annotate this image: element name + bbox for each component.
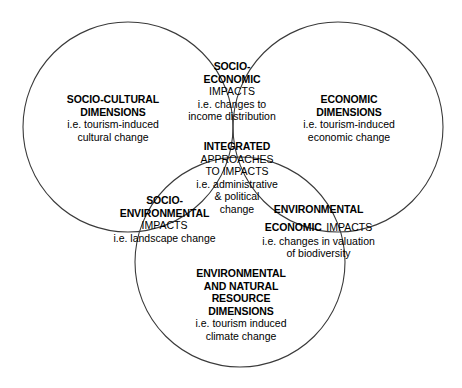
socio-env-sub-line1: i.e. landscape change bbox=[98, 232, 231, 245]
label-socio-economic-impacts: SOCIO- ECONOMIC IMPACTS i.e. changes to … bbox=[171, 60, 293, 123]
socio-cultural-sub-line2: cultural change bbox=[28, 131, 198, 144]
label-environmental-natural-resource-dimensions: ENVIRONMENTAL AND NATURAL RESOURCE DIMEN… bbox=[155, 267, 327, 343]
socio-economic-sub-line1: i.e. changes to bbox=[171, 98, 293, 111]
env-natural-title-line4: DIMENSIONS bbox=[155, 305, 327, 318]
integrated-title-line3: TO IMPACTS bbox=[183, 165, 291, 178]
env-economic-sub-line2: of biodiversity bbox=[247, 247, 390, 260]
socio-env-title-line3: IMPACTS bbox=[98, 219, 231, 232]
venn-diagram: SOCIO-CULTURAL DIMENSIONS i.e. tourism-i… bbox=[0, 0, 462, 388]
env-natural-sub-line2: climate change bbox=[155, 330, 327, 343]
env-natural-sub-line1: i.e. tourism induced bbox=[155, 317, 327, 330]
env-economic-title-line2: ECONOMIC IMPACTS bbox=[247, 216, 390, 235]
env-economic-title-line2-regular: IMPACTS bbox=[326, 221, 372, 233]
socio-economic-title-line2: ECONOMIC bbox=[171, 73, 293, 86]
env-natural-title-line2: AND NATURAL bbox=[155, 280, 327, 293]
socio-economic-sub-line2: income distribution bbox=[171, 110, 293, 123]
env-economic-title-line2-bold: ECONOMIC bbox=[265, 221, 322, 233]
socio-economic-title-line3: IMPACTS bbox=[171, 85, 293, 98]
socio-economic-title-line1: SOCIO- bbox=[171, 60, 293, 73]
integrated-sub-line3: change bbox=[183, 203, 291, 216]
integrated-sub-line1: i.e. administrative bbox=[183, 178, 291, 191]
integrated-title-line2: APPROACHES bbox=[183, 153, 291, 166]
env-economic-sub-line1: i.e. changes in valuation bbox=[247, 235, 390, 248]
integrated-title-line1: INTEGRATED bbox=[183, 140, 291, 153]
env-natural-title-line1: ENVIRONMENTAL bbox=[155, 267, 327, 280]
env-natural-title-line3: RESOURCE bbox=[155, 292, 327, 305]
label-integrated-approaches-to-impacts: INTEGRATED APPROACHES TO IMPACTS i.e. ad… bbox=[183, 140, 291, 216]
integrated-sub-line2: & political bbox=[183, 190, 291, 203]
